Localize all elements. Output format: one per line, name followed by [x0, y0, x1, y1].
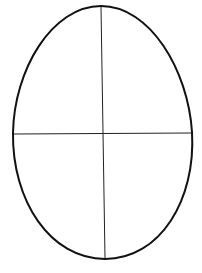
egg-diagram	[0, 0, 202, 273]
horizontal-axis-line	[14, 133, 191, 134]
vertical-axis-line	[101, 7, 105, 258]
